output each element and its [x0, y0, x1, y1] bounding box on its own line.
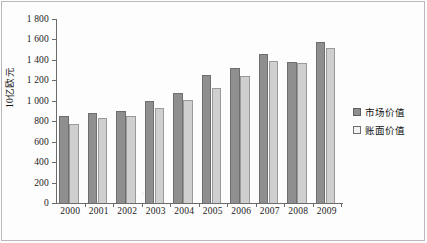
y-tick-mark: [52, 203, 56, 204]
y-tick-mark: [52, 19, 56, 20]
x-tick-label-2000: 2000: [56, 206, 85, 216]
x-tick-label-2002: 2002: [113, 206, 142, 216]
bar-book-2009: [326, 48, 336, 203]
y-tick-mark: [52, 162, 56, 163]
y-tick-label: 1 200: [27, 75, 49, 85]
y-tick-label: 400: [34, 157, 49, 167]
bar-market-2007: [259, 54, 269, 203]
bar-market-2006: [230, 68, 240, 203]
bar-book-2000: [69, 124, 79, 203]
bar-market-2000: [59, 116, 69, 203]
bar-book-2008: [297, 63, 307, 203]
legend-swatch-book-icon: [353, 126, 361, 134]
legend-label-book: 账面价值: [365, 123, 405, 137]
y-tick-mark: [52, 183, 56, 184]
y-tick-label: 600: [34, 137, 49, 147]
y-tick-mark: [52, 142, 56, 143]
chart-figure: 10亿欧元 02004006008001 0001 2001 4001 6001…: [0, 0, 427, 243]
x-tick-label-2008: 2008: [284, 206, 313, 216]
y-axis-title: 10亿欧元: [2, 67, 16, 108]
bar-book-2006: [240, 76, 250, 203]
bar-book-2001: [98, 118, 108, 203]
x-tick-label-2001: 2001: [85, 206, 114, 216]
y-tick-label: 1 800: [27, 14, 49, 24]
x-tick-label-2009: 2009: [313, 206, 342, 216]
chart-legend: 市场价值 账面价值: [353, 104, 405, 140]
x-tick-label-2006: 2006: [227, 206, 256, 216]
x-axis-line: [56, 203, 343, 204]
y-tick-label: 1 400: [27, 55, 49, 65]
legend-item-market: 市场价值: [353, 104, 405, 119]
x-tick-mark: [341, 203, 342, 207]
bar-book-2003: [155, 108, 165, 203]
y-tick-mark: [52, 80, 56, 81]
bar-market-2005: [202, 75, 212, 203]
y-tick-mark: [52, 101, 56, 102]
bar-market-2009: [316, 42, 326, 204]
y-tick-label: 1 600: [27, 34, 49, 44]
bar-book-2002: [126, 116, 136, 203]
bar-market-2001: [88, 113, 98, 203]
x-tick-label-2004: 2004: [170, 206, 199, 216]
legend-swatch-market-icon: [353, 108, 361, 116]
bar-market-2004: [173, 93, 183, 203]
plot-area: 02004006008001 0001 2001 4001 6001 800 2…: [56, 19, 341, 203]
bar-market-2003: [145, 101, 155, 203]
y-tick-mark: [52, 60, 56, 61]
legend-item-book: 账面价值: [353, 122, 405, 137]
scan-artifact: :: [142, 191, 146, 195]
y-tick-mark: [52, 121, 56, 122]
x-tick-label-2007: 2007: [256, 206, 285, 216]
bar-book-2004: [183, 100, 193, 203]
bar-book-2007: [269, 61, 279, 203]
x-tick-label-2003: 2003: [142, 206, 171, 216]
y-tick-label: 800: [34, 116, 49, 126]
bar-book-2005: [212, 88, 222, 204]
legend-label-market: 市场价值: [365, 105, 405, 119]
x-tick-label-2005: 2005: [199, 206, 228, 216]
y-tick-label: 200: [34, 178, 49, 188]
bar-market-2002: [116, 111, 126, 203]
bar-market-2008: [287, 62, 297, 203]
y-tick-label: 1 000: [27, 96, 49, 106]
y-tick-label: 0: [44, 198, 49, 208]
y-tick-mark: [52, 39, 56, 40]
